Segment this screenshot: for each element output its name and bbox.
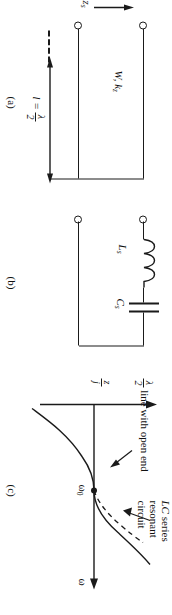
label-x-axis: ω	[76, 578, 88, 585]
label-line-length: l = λ2	[25, 96, 46, 121]
circuit-right-wire	[79, 345, 144, 346]
panel-a: zs W, kz l = λ2 (a)	[0, 0, 172, 205]
inductor-symbol	[126, 239, 160, 287]
label-capacitor: Cs	[113, 298, 126, 308]
circuit-lead-left	[143, 221, 144, 239]
annotation-lc-circuit: LC series resonant circuit	[136, 500, 172, 541]
panel-caption-a: (a)	[6, 96, 18, 108]
annotation-open-line: λ2 line with open end	[133, 378, 154, 471]
panel-b: Ls Cs (b)	[0, 210, 172, 365]
figure-root: zs W, kz l = λ2 (a)	[0, 0, 172, 615]
capacitor-plate-left	[129, 302, 159, 304]
label-resonance: ω0	[75, 484, 88, 495]
circuit-lead-mid	[143, 287, 144, 302]
panel-caption-b: (b)	[6, 276, 18, 289]
panel-c: zj ω ω0 λ2 line with open end LC series …	[0, 372, 172, 615]
circuit-bottom-wire	[78, 221, 79, 345]
figure-canvas: zs W, kz l = λ2 (a)	[0, 0, 172, 615]
circuit-lead-right	[143, 312, 144, 345]
capacitor-plate-right	[129, 310, 159, 312]
label-y-axis: zj	[91, 378, 112, 386]
label-inductor: Ls	[115, 244, 128, 253]
panel-caption-c: (c)	[6, 484, 18, 496]
